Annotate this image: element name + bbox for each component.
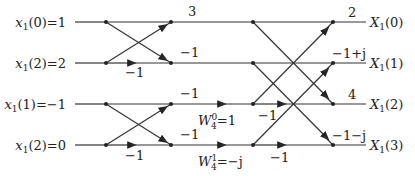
- input-label-1: x1(2)=2: [15, 56, 66, 73]
- twiddle-w1: W14=−j: [198, 153, 243, 172]
- intermediate-value-3: −1: [180, 127, 199, 142]
- intermediate-value-2: −1: [180, 86, 199, 101]
- result-value-1: −1+j: [332, 46, 366, 61]
- butterfly-flow-graph: x1(0)=1 x1(2)=2 x1(1)=−1 x1(2)=0 −1 −1 3…: [0, 0, 415, 176]
- result-value-0: 2: [348, 5, 356, 20]
- input-label-0: x1(0)=1: [15, 15, 66, 32]
- output-labels: X1(0) X1(1) X1(2) X1(3): [369, 15, 403, 155]
- stage2-butterflies: [253, 22, 333, 145]
- output-label-2: X1(2): [369, 97, 403, 114]
- intermediate-value-0: 3: [188, 4, 196, 19]
- twiddle-w0: W04=1: [198, 112, 236, 131]
- input-label-2: x1(1)=−1: [4, 97, 66, 114]
- stage2-multiplier-bottom: −1: [270, 150, 289, 165]
- stage1-multiplier-top: −1: [125, 65, 144, 80]
- output-label-0: X1(0): [369, 15, 403, 32]
- result-value-3: −1−j: [332, 128, 366, 143]
- intermediate-value-1: −1: [180, 45, 199, 60]
- input-leads: [75, 22, 106, 145]
- output-leads: [333, 22, 366, 145]
- output-label-1: X1(1): [369, 56, 403, 73]
- result-value-2: 4: [348, 87, 356, 102]
- stage1-butterflies: [106, 22, 171, 145]
- input-labels: x1(0)=1 x1(2)=2 x1(1)=−1 x1(2)=0: [4, 15, 66, 155]
- input-label-3: x1(2)=0: [15, 138, 66, 155]
- stage1-multiplier-bottom: −1: [125, 148, 144, 163]
- output-label-3: X1(3): [369, 138, 403, 155]
- stage2-multiplier-top: −1: [258, 108, 277, 123]
